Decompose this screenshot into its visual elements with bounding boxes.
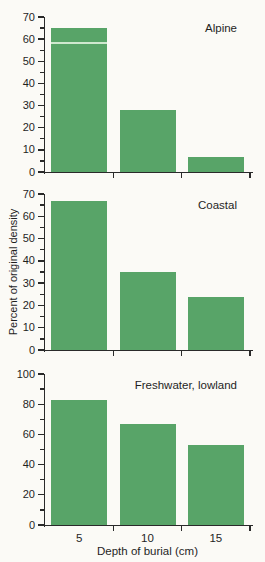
y-major-tick	[38, 216, 44, 217]
y-tick-label: 60	[0, 33, 35, 46]
y-major-tick	[38, 373, 44, 374]
y-major-tick	[38, 127, 44, 128]
y-tick-label: 60	[0, 210, 35, 223]
y-axis-line	[44, 374, 45, 527]
x-tick-label: 5	[62, 532, 96, 545]
y-minor-tick	[40, 94, 44, 95]
y-minor-tick	[40, 116, 44, 117]
bar-depth-5cm	[51, 28, 107, 172]
y-minor-tick	[40, 294, 44, 295]
y-tick-label: 40	[0, 254, 35, 267]
x-tick	[249, 351, 250, 356]
y-minor-tick	[40, 316, 44, 317]
y-minor-tick	[40, 479, 44, 480]
x-axis-line	[44, 525, 253, 526]
y-tick-label: 0	[0, 344, 35, 357]
x-tick-label: 10	[131, 532, 165, 545]
x-tick	[113, 351, 114, 356]
y-minor-tick	[40, 72, 44, 73]
x-tick-label: 15	[199, 532, 233, 545]
y-major-tick	[38, 349, 44, 350]
y-axis-title: Percent of original density	[6, 207, 20, 337]
y-major-tick	[38, 282, 44, 283]
bar-depth-10cm	[120, 110, 176, 172]
panel-title: Alpine	[205, 22, 237, 35]
x-axis-line	[44, 172, 253, 173]
y-major-tick	[38, 61, 44, 62]
y-tick-label: 10	[0, 143, 35, 156]
x-tick	[181, 526, 182, 531]
y-tick-label: 0	[0, 519, 35, 532]
y-major-tick	[38, 105, 44, 106]
y-minor-tick	[40, 204, 44, 205]
y-major-tick	[38, 38, 44, 39]
y-minor-tick	[40, 138, 44, 139]
x-tick	[113, 173, 114, 178]
bar-depth-10cm	[120, 272, 176, 350]
y-minor-tick	[40, 249, 44, 250]
y-major-tick	[38, 327, 44, 328]
panel-title: Coastal	[198, 199, 237, 212]
y-major-tick	[38, 464, 44, 465]
y-minor-tick	[40, 388, 44, 389]
y-tick-label: 30	[0, 99, 35, 112]
bar-artifact-line	[51, 42, 107, 43]
y-major-tick	[38, 193, 44, 194]
bar-depth-15cm	[188, 445, 244, 525]
y-tick-label: 60	[0, 428, 35, 441]
y-major-tick	[38, 149, 44, 150]
x-tick	[181, 173, 182, 178]
y-minor-tick	[40, 27, 44, 28]
y-minor-tick	[40, 160, 44, 161]
y-tick-label: 50	[0, 232, 35, 245]
x-axis-line	[44, 350, 253, 351]
y-tick-label: 70	[0, 11, 35, 24]
y-tick-label: 30	[0, 277, 35, 290]
bar-depth-5cm	[51, 201, 107, 350]
y-major-tick	[38, 260, 44, 261]
panel-title: Freshwater, lowland	[135, 379, 237, 392]
y-tick-label: 20	[0, 299, 35, 312]
y-minor-tick	[40, 338, 44, 339]
bar-chart-figure: Percent of original density 010203040506…	[0, 0, 265, 562]
y-axis-line	[44, 194, 45, 352]
y-major-tick	[38, 494, 44, 495]
bar-depth-5cm	[51, 400, 107, 525]
y-tick-label: 80	[0, 398, 35, 411]
y-minor-tick	[40, 509, 44, 510]
y-major-tick	[38, 404, 44, 405]
y-tick-label: 50	[0, 55, 35, 68]
bar-depth-10cm	[120, 424, 176, 525]
y-major-tick	[38, 171, 44, 172]
y-major-tick	[38, 238, 44, 239]
y-major-tick	[38, 524, 44, 525]
y-minor-tick	[40, 419, 44, 420]
y-tick-label: 70	[0, 188, 35, 201]
y-major-tick	[38, 434, 44, 435]
panel-coastal: 010203040506070Coastal	[45, 194, 250, 350]
y-major-tick	[38, 305, 44, 306]
x-tick	[249, 173, 250, 178]
y-minor-tick	[40, 449, 44, 450]
y-minor-tick	[40, 50, 44, 51]
y-tick-label: 40	[0, 458, 35, 471]
x-tick	[249, 526, 250, 531]
y-tick-label: 20	[0, 488, 35, 501]
y-tick-label: 100	[0, 368, 35, 381]
x-tick	[181, 351, 182, 356]
y-minor-tick	[40, 271, 44, 272]
panel-alpine: 010203040506070Alpine	[45, 17, 250, 172]
y-tick-label: 40	[0, 77, 35, 90]
y-major-tick	[38, 16, 44, 17]
panel-freshwater-lowland: 020406080100Freshwater, lowland51015	[45, 374, 250, 525]
bar-depth-15cm	[188, 157, 244, 173]
y-axis-line	[44, 17, 45, 174]
y-minor-tick	[40, 227, 44, 228]
y-major-tick	[38, 83, 44, 84]
x-axis-title: Depth of burial (cm)	[45, 545, 250, 558]
y-tick-label: 10	[0, 321, 35, 334]
y-tick-label: 0	[0, 166, 35, 179]
x-tick	[113, 526, 114, 531]
bar-depth-15cm	[188, 297, 244, 350]
y-tick-label: 20	[0, 121, 35, 134]
